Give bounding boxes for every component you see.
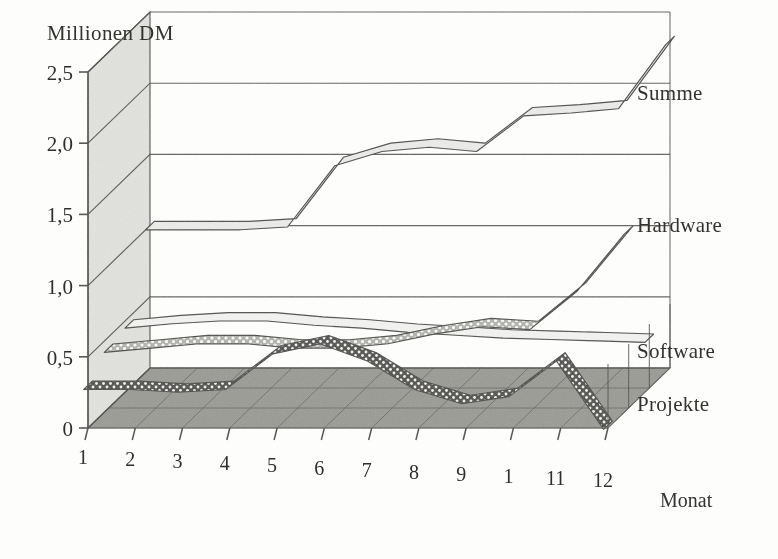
x-tick-label: 1 bbox=[503, 465, 513, 487]
gridline bbox=[88, 154, 670, 214]
series-ribbon-summe bbox=[146, 36, 675, 230]
x-tick-label: 7 bbox=[362, 459, 372, 481]
x-tick-label: 1 bbox=[78, 446, 88, 468]
y-tick-label: 1,0 bbox=[47, 275, 73, 299]
y-tick-label: 0 bbox=[63, 417, 74, 441]
x-axis-title: Monat bbox=[660, 489, 713, 511]
x-axis-tick bbox=[416, 428, 419, 440]
y-tick-label: 0,5 bbox=[47, 346, 73, 370]
x-tick-label: 9 bbox=[456, 463, 466, 485]
x-axis-tick bbox=[274, 428, 277, 440]
gridline bbox=[88, 83, 670, 143]
x-tick-label: 11 bbox=[546, 467, 565, 489]
chart-back-wall bbox=[88, 12, 150, 428]
x-axis-tick bbox=[463, 428, 466, 440]
x-tick-labels: 12345678911112 bbox=[78, 446, 613, 491]
x-axis-tick bbox=[605, 428, 608, 440]
x-axis-tick bbox=[227, 428, 230, 440]
x-tick-label: 12 bbox=[593, 469, 613, 491]
gridline bbox=[88, 226, 670, 286]
series-label-hardware: Hardware bbox=[637, 213, 722, 237]
y-tick-labels: 00,51,01,52,02,5 bbox=[47, 61, 73, 441]
x-axis-tick bbox=[321, 428, 324, 440]
y-tick-label: 1,5 bbox=[47, 203, 73, 227]
series-label-software: Software bbox=[637, 339, 715, 363]
series-label-projekte: Projekte bbox=[637, 392, 709, 416]
x-tick-label: 5 bbox=[267, 454, 277, 476]
series-label-summe: Summe bbox=[637, 81, 703, 105]
ribbon-surface bbox=[146, 36, 675, 230]
three-d-area-chart: Millionen DM Monat 00,51,01,52,02,5 1234… bbox=[0, 0, 778, 559]
x-tick-label: 4 bbox=[220, 452, 230, 474]
x-axis-tick bbox=[510, 428, 513, 440]
x-tick-label: 8 bbox=[409, 461, 419, 483]
x-axis-tick bbox=[180, 428, 183, 440]
y-axis-title: Millionen DM bbox=[47, 21, 174, 45]
x-axis-tick bbox=[369, 428, 372, 440]
chart-figure: Millionen DM Monat 00,51,01,52,02,5 1234… bbox=[0, 0, 778, 559]
y-tick-label: 2,0 bbox=[47, 132, 73, 156]
x-tick-label: 6 bbox=[314, 457, 324, 479]
x-axis-tick bbox=[558, 428, 561, 440]
x-axis-tick bbox=[85, 428, 88, 440]
x-tick-label: 2 bbox=[125, 448, 135, 470]
gridline bbox=[88, 12, 670, 72]
x-tick-label: 3 bbox=[173, 450, 183, 472]
x-axis-tick bbox=[132, 428, 135, 440]
y-tick-label: 2,5 bbox=[47, 61, 73, 85]
left-wall-panel bbox=[88, 12, 150, 428]
